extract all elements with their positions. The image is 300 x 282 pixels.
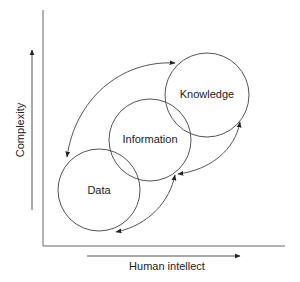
node-knowledge-label: Knowledge [180,88,234,100]
y-axis-label: Complexity [14,102,26,157]
node-information-label: Information [122,133,177,145]
diagram-canvas: Complexity Human intellect Data Informat… [0,0,300,282]
dikw-diagram: Complexity Human intellect Data Informat… [0,0,300,282]
node-information: Information [109,99,191,181]
node-knowledge: Knowledge [165,53,249,137]
x-axis-label: Human intellect [129,260,205,272]
node-data: Data [58,149,140,231]
node-data-label: Data [87,184,111,196]
arrow-data-information [116,175,175,232]
